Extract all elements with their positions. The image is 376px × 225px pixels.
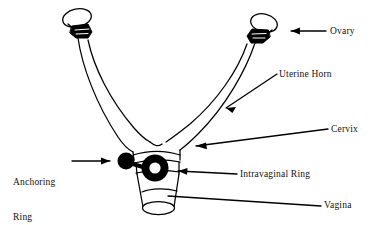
oviduct-left-highlight-b (76, 34, 88, 35)
label-uterine-horn: Uterine Horn (279, 69, 332, 81)
label-cervix: Cervix (331, 124, 358, 136)
intravaginal-ring (142, 155, 169, 182)
label-vagina: Vagina (324, 200, 352, 212)
oviduct-left (70, 24, 92, 38)
oviduct-right-highlight-a (252, 34, 266, 35)
vagina-opening (143, 202, 175, 215)
label-anchoring-ring-line1: Anchoring (13, 177, 55, 189)
oviduct-left-mass (70, 24, 92, 38)
label-anchoring-ring-line2: Ring (13, 212, 55, 224)
anchoring-ring (118, 153, 135, 170)
figure-root: Ovary Uterine Horn Cervix Intravaginal R… (0, 0, 376, 225)
intravaginal-ring-lumen (149, 162, 160, 173)
label-anchoring-ring: Anchoring Ring (13, 154, 55, 225)
figure-background (0, 0, 376, 225)
label-ovary: Ovary (330, 26, 355, 38)
label-intravaginal-ring: Intravaginal Ring (240, 169, 310, 181)
anchoring-ring-disc (118, 153, 135, 170)
reproductive-tract-diagram (0, 0, 376, 225)
